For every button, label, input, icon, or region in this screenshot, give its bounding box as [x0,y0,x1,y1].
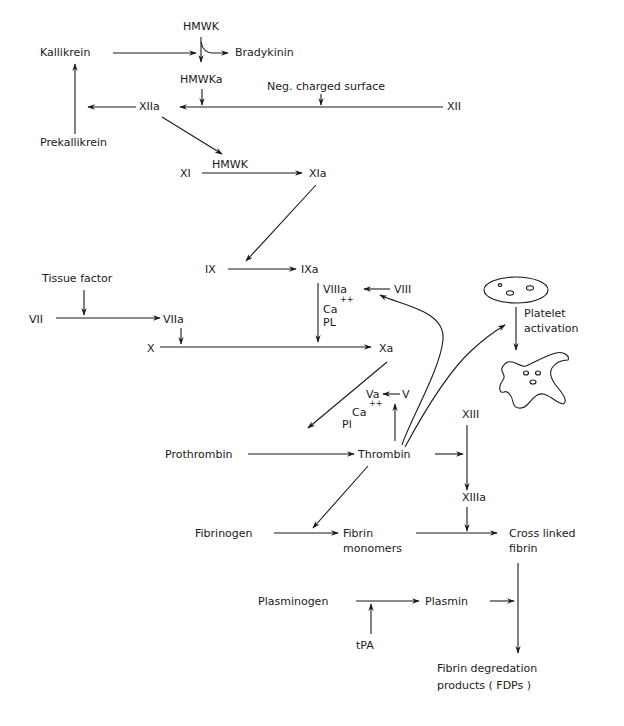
label-plasminogen: Plasminogen [258,595,328,608]
label-xiiia: XIIIa [462,491,486,504]
label-platelet: Platelet [524,307,566,320]
label-viii: VIII [394,283,411,296]
label-xiii: XIII [462,408,479,421]
label-activation: activation [524,322,579,335]
label-xa: Xa [379,342,393,355]
activated-platelet-icon [500,353,569,409]
label-hmwka: HMWKa [180,73,222,86]
label-fdp-2: products ( FDPs ) [437,679,531,692]
label-xia: XIa [309,167,327,180]
label-pl-1: PL [323,316,337,329]
label-ix: IX [205,263,216,276]
label-plasmin: Plasmin [425,595,468,608]
label-ca-1: Ca [323,303,337,316]
label-ixa: IXa [301,263,319,276]
label-vii: VII [29,313,43,326]
label-ca-1-superscript: ++ [340,295,353,304]
label-prothrombin: Prothrombin [165,448,233,461]
arrow-xia-to-ix [246,185,316,261]
label-tpa: tPA [356,639,374,652]
label-pl-2: Pl [342,418,352,431]
label-kallikrein: Kallikrein [40,46,90,59]
label-cross-linked: Cross linked [509,527,575,540]
label-hmwk-top: HMWK [183,20,220,33]
label-neg-charged-surface: Neg. charged surface [267,80,385,93]
label-xii: XII [447,100,461,113]
arrow-thrombin-to-fibrinogen [313,466,368,528]
arrow-thrombin-to-platelet [405,325,505,447]
label-ca-2-superscript: ++ [369,399,382,408]
label-prekallikrein: Prekallikrein [40,136,107,149]
label-hmwk-xi: HMWK [212,158,249,171]
label-ca-2: Ca [352,406,366,419]
coagulation-cascade-diagram: HMWK Kallikrein Bradykinin HMWKa Neg. ch… [0,0,624,726]
label-viia: VIIa [163,313,184,326]
label-monomers: monomers [343,542,402,555]
label-xi: XI [180,167,191,180]
label-cross-linked-fibrin: fibrin [509,542,537,555]
label-fibrinogen: Fibrinogen [195,527,253,540]
label-bradykinin: Bradykinin [235,46,294,59]
label-thrombin: Thrombin [357,448,410,461]
arrow-hmwk-to-bradykinin [201,42,228,53]
arrow-thrombin-to-viii [380,295,443,445]
label-xiia: XIIa [139,100,160,113]
label-fibrin: Fibrin [343,527,373,540]
resting-platelet-icon [484,277,548,303]
label-tissue-factor: Tissue factor [41,272,113,285]
label-v: V [402,388,410,401]
label-x: X [147,342,155,355]
arrow-xiia-to-xi [162,117,222,154]
label-fdp-1: Fibrin degredation [437,662,537,675]
